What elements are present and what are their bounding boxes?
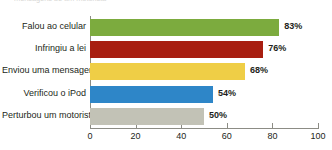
x-axis-tick-label: 80 [267, 131, 277, 141]
bar-value-label: 83% [284, 21, 302, 31]
bar [90, 86, 213, 103]
bar-value-label: 76% [268, 43, 286, 53]
x-axis-tick-mark [318, 123, 319, 128]
bar [90, 63, 245, 80]
x-axis-tick-label: 20 [131, 131, 141, 141]
category-label: Infringiu a lei [2, 43, 86, 53]
chart-row: Infringiu a lei76% [90, 38, 318, 60]
x-axis-spine [90, 128, 319, 129]
category-label: Perturbou um motorista [2, 110, 86, 120]
bar-value-label: 54% [218, 88, 236, 98]
category-label: Falou ao celular [2, 21, 86, 31]
bar [90, 19, 279, 36]
chart-row: Falou ao celular83% [90, 16, 318, 38]
x-axis-tick-label: 40 [176, 131, 186, 141]
x-axis-tick-label: 60 [222, 131, 232, 141]
bar [90, 41, 263, 58]
bar-value-label: 50% [209, 110, 227, 120]
chart-row: Perturbou um motorista50% [90, 106, 318, 128]
category-label: Enviou uma mensagem [2, 65, 86, 75]
x-axis-tick-label: 100 [310, 131, 325, 141]
x-axis-tick-label: 0 [87, 131, 92, 141]
chart-row: Enviou uma mensagem68% [90, 61, 318, 83]
bar-chart: mensagens de um motorista 020406080100 F… [0, 0, 332, 150]
bar-value-label: 68% [250, 65, 268, 75]
plot-area: Falou ao celular83%Infringiu a lei76%Env… [90, 16, 318, 128]
chart-row: Verificou o iPod54% [90, 83, 318, 105]
category-label: Verificou o iPod [2, 88, 86, 98]
bar [90, 108, 204, 125]
clipped-caption-text: mensagens de um motorista [14, 0, 184, 3]
